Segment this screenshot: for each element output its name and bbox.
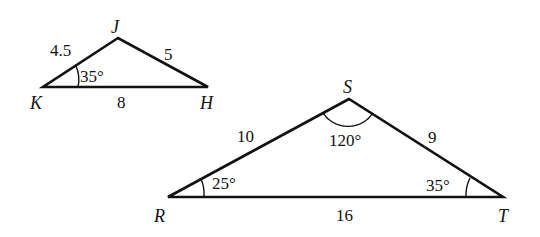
vertex-label-r: R xyxy=(153,206,165,226)
angle-r-arc xyxy=(201,179,204,197)
angle-label-r: 25° xyxy=(212,174,236,193)
side-label-st: 9 xyxy=(428,128,437,147)
vertex-label-t: T xyxy=(498,206,510,226)
angle-label-k: 35° xyxy=(80,67,104,86)
triangle-jkh: J K H 4.5 5 8 35° xyxy=(29,17,214,113)
vertex-label-s: S xyxy=(343,77,352,97)
vertex-label-k: K xyxy=(29,93,43,113)
angle-label-s: 120° xyxy=(329,131,361,150)
angle-s-arc xyxy=(323,113,373,126)
angle-t-arc xyxy=(466,178,470,197)
vertex-label-h: H xyxy=(199,93,214,113)
side-label-jh: 5 xyxy=(164,45,173,64)
angle-k-arc xyxy=(76,66,79,87)
angle-label-t: 35° xyxy=(426,176,450,195)
vertex-label-j: J xyxy=(111,17,120,37)
diagram-canvas: J K H 4.5 5 8 35° S R T 10 9 16 120° 25°… xyxy=(0,0,540,237)
side-label-rt: 16 xyxy=(336,206,353,225)
side-label-rs: 10 xyxy=(237,127,254,146)
side-label-kh: 8 xyxy=(117,93,126,112)
side-label-kj: 4.5 xyxy=(50,41,71,60)
